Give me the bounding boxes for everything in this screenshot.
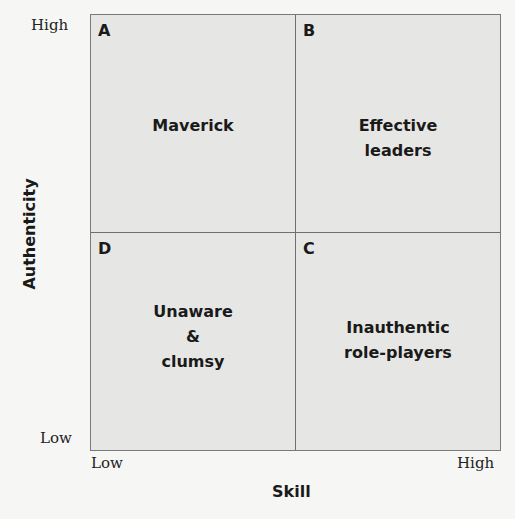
quadrant-d: D Unaware & clumsy bbox=[91, 233, 295, 450]
y-axis-title: Authenticity bbox=[20, 178, 39, 289]
x-axis-low-label: Low bbox=[91, 454, 123, 472]
x-axis-title: Skill bbox=[272, 482, 311, 501]
horizontal-divider bbox=[91, 232, 500, 233]
quadrant-label: Maverick bbox=[91, 113, 295, 138]
quadrant-letter: A bbox=[98, 21, 110, 40]
quadrant-b: B Effective leaders bbox=[296, 15, 500, 232]
quadrant-letter: B bbox=[303, 21, 315, 40]
quadrant-c: C Inauthentic role-players bbox=[296, 233, 500, 450]
quadrant-grid: A Maverick B Effective leaders D Unaware… bbox=[90, 14, 501, 451]
quadrant-label: Inauthentic role-players bbox=[296, 315, 500, 365]
x-axis-high-label: High bbox=[457, 454, 494, 472]
quadrant-label: Unaware & clumsy bbox=[91, 299, 295, 374]
quadrant-a: A Maverick bbox=[91, 15, 295, 232]
quadrant-letter: C bbox=[303, 239, 315, 258]
y-axis-high-label: High bbox=[31, 16, 68, 34]
y-axis-low-label: Low bbox=[40, 429, 72, 447]
quadrant-letter: D bbox=[98, 239, 111, 258]
quadrant-label: Effective leaders bbox=[296, 113, 500, 163]
